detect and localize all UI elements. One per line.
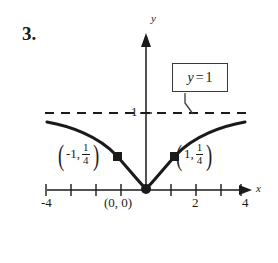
close-paren: ) [206,143,212,166]
x-axis-label: x [256,183,261,194]
fraction-denominator: 4 [196,155,204,166]
callout-pointer-tail [185,92,193,114]
point-marker-origin [141,184,151,194]
left-point-label: ( -1, 1 4 ) [56,142,101,166]
y-axis-label: y [151,13,156,24]
left-point-x-value: -1, [66,146,80,162]
right-point-fraction: 1 4 [196,142,204,166]
point-marker-left [113,152,122,161]
open-paren: ( [58,143,64,166]
fraction-numerator: 1 [196,142,204,153]
left-point-fraction: 1 4 [82,142,90,166]
figure-container: 3. [0,0,278,263]
x-tick-label-2: 2 [192,196,199,209]
y-tick-label-1: 1 [131,105,138,118]
y-axis-arrowhead [141,33,151,47]
callout-variable: y [187,70,195,86]
origin-point-label: (0, 0) [104,196,132,209]
graph-canvas [0,0,278,263]
right-point-x-value: 1, [184,146,194,162]
callout-equals: = [196,70,206,86]
close-paren: ) [92,143,98,166]
asymptote-callout-box: y = 1 [172,63,228,92]
fraction-denominator: 4 [82,155,90,166]
asymptote-callout-text: y = 1 [173,64,227,91]
x-tick-label-4: 4 [242,196,249,209]
fraction-numerator: 1 [82,142,90,153]
x-tick-label-neg4: -4 [41,196,52,209]
open-paren: ( [176,143,182,166]
callout-value: 1 [206,70,213,86]
right-point-label: ( 1, 1 4 ) [174,142,214,166]
